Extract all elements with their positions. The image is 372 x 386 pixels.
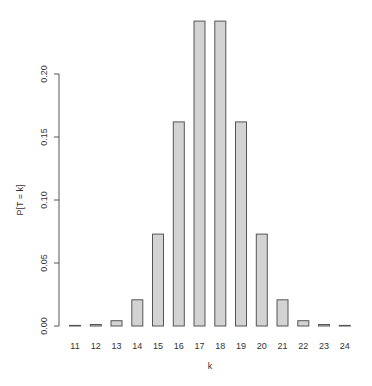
- bar-k-16: [173, 122, 184, 326]
- bar-k-14: [132, 300, 143, 326]
- x-tick-label: 15: [153, 341, 163, 351]
- y-tick-label: 0.15: [39, 128, 49, 146]
- bar-k-17: [194, 21, 205, 326]
- x-tick-label: 20: [257, 341, 267, 351]
- y-axis-label: P[T = k]: [15, 184, 25, 215]
- bar-k-22: [298, 321, 309, 326]
- x-tick-label: 21: [277, 341, 287, 351]
- x-axis-tick-labels: 1112131415161718192021222324: [70, 341, 349, 351]
- x-tick-label: 14: [132, 341, 142, 351]
- bar-chart: 0.000.050.100.150.20 1112131415161718192…: [0, 0, 372, 386]
- x-tick-label: 24: [340, 341, 350, 351]
- x-tick-label: 17: [194, 341, 204, 351]
- y-tick-label: 0.00: [39, 317, 49, 335]
- bar-k-11: [70, 325, 81, 326]
- bar-k-19: [236, 122, 247, 326]
- bar-k-18: [215, 21, 226, 326]
- bar-k-24: [339, 325, 350, 326]
- x-tick-label: 23: [319, 341, 329, 351]
- bars-group: [70, 21, 351, 326]
- x-tick-label: 13: [111, 341, 121, 351]
- y-tick-label: 0.20: [39, 65, 49, 83]
- bar-k-12: [90, 325, 101, 327]
- bar-k-20: [256, 234, 267, 326]
- x-tick-label: 12: [91, 341, 101, 351]
- x-axis-label: k: [208, 361, 213, 371]
- x-tick-label: 18: [215, 341, 225, 351]
- bar-k-23: [319, 325, 330, 327]
- y-tick-label: 0.05: [39, 254, 49, 272]
- x-tick-label: 22: [298, 341, 308, 351]
- bar-k-13: [111, 321, 122, 326]
- y-axis: 0.000.050.100.150.20: [39, 65, 59, 335]
- x-tick-label: 19: [236, 341, 246, 351]
- y-tick-label: 0.10: [39, 191, 49, 209]
- x-tick-label: 16: [174, 341, 184, 351]
- x-tick-label: 11: [70, 341, 79, 351]
- bar-k-15: [153, 234, 164, 326]
- bar-k-21: [277, 300, 288, 326]
